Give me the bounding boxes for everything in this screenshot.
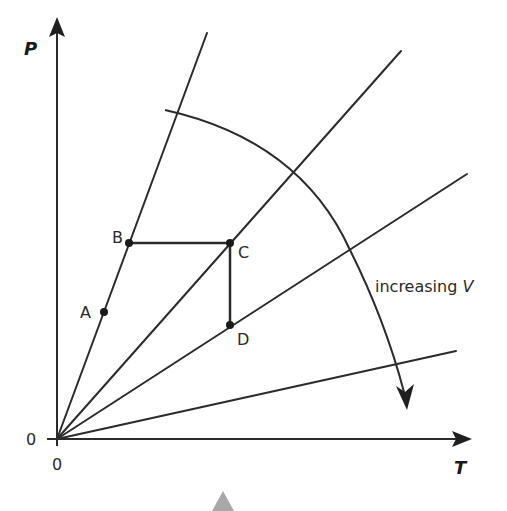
- origin-x-tick: 0: [52, 455, 62, 474]
- label-a: A: [80, 303, 91, 322]
- origin-y-tick: 0: [26, 430, 36, 449]
- y-axis-label: P: [24, 38, 37, 59]
- increasing-text: increasing: [375, 277, 462, 296]
- gray-triangle-marker-icon: [212, 491, 234, 511]
- y-axis: [49, 17, 65, 446]
- x-axis: [47, 431, 472, 447]
- point-d: [226, 321, 234, 329]
- label-b: B: [112, 228, 123, 247]
- point-c: [226, 239, 234, 247]
- label-d: D: [237, 330, 249, 349]
- x-axis-label: T: [454, 457, 468, 478]
- point-b: [125, 239, 133, 247]
- v-variable: V: [462, 277, 474, 296]
- arc-arrowhead-icon: [396, 384, 414, 410]
- increasing-v-arc: [165, 110, 414, 410]
- process-path: [129, 243, 230, 325]
- isochore-1: [57, 33, 207, 439]
- pt-diagram: P T 0 0 A B C D increasing V: [0, 0, 507, 511]
- point-a: [100, 308, 108, 316]
- label-c: C: [238, 243, 249, 262]
- increasing-v-label: increasing V: [375, 277, 474, 296]
